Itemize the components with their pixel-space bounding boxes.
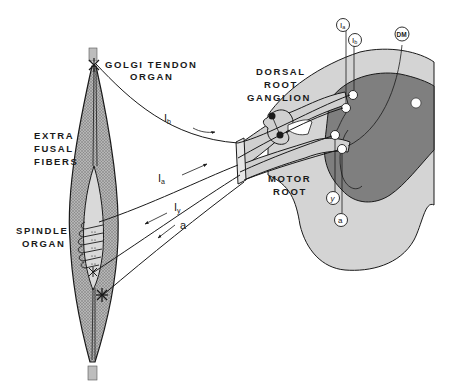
- circled-label-ib: Ib: [349, 34, 362, 47]
- label-golgi-1: GOLGI TENDON: [105, 59, 198, 70]
- label-golgi-2: ORGAN: [130, 71, 173, 82]
- label-extrafusal-3: FIBERS: [34, 156, 78, 167]
- label-dorsal-2: ROOT: [264, 79, 298, 90]
- label-extrafusal-2: FUSAL: [34, 143, 74, 154]
- fiber-label-ia: Ia: [158, 172, 165, 185]
- label-dorsal-3: GANGLION: [247, 92, 311, 103]
- neuron-alpha: [338, 145, 347, 154]
- fiber-label-gamma: Iy: [174, 201, 181, 215]
- label-spindle-2: ORGAN: [22, 238, 65, 249]
- fiber-label-alpha: a: [180, 219, 187, 231]
- fiber-alpha: [103, 182, 244, 295]
- fiber-ia: [99, 165, 238, 222]
- circled-label-ia: Ia: [337, 19, 350, 32]
- text-labels: GOLGI TENDON ORGAN EXTRA FUSAL FIBERS SP…: [16, 59, 311, 249]
- stretch-reflex-diagram: GOLGI TENDON ORGAN EXTRA FUSAL FIBERS SP…: [0, 0, 453, 390]
- label-dorsal-1: DORSAL: [256, 66, 306, 77]
- label-extrafusal-1: EXTRA: [34, 130, 74, 141]
- top-tendon: [89, 48, 97, 61]
- muscle: [69, 48, 118, 380]
- central-canal: [411, 98, 421, 108]
- alpha-end-plate-icon: [96, 288, 108, 302]
- svg-text:a: a: [338, 216, 343, 225]
- label-spindle-1: SPINDLE: [16, 225, 68, 236]
- arrow-ib-icon: [193, 128, 215, 132]
- circled-label-gamma: y: [327, 192, 340, 205]
- label-motor-1: MOTOR: [268, 173, 311, 184]
- circled-label-alpha: a: [335, 214, 348, 227]
- fiber-label-ib: Ib: [164, 112, 171, 125]
- arrow-ia-icon: [182, 164, 207, 175]
- svg-text:DM: DM: [397, 31, 407, 38]
- neuron-gamma: [331, 131, 340, 140]
- circled-label-dm: DM: [395, 27, 409, 41]
- arrow-gamma-icon: [145, 213, 167, 224]
- bottom-tendon: [88, 366, 97, 380]
- label-motor-2: ROOT: [273, 186, 307, 197]
